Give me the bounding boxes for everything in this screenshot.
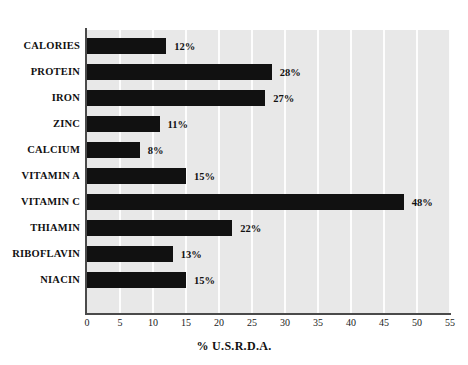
x-tick-label: 50 bbox=[402, 317, 432, 328]
x-tick-label: 25 bbox=[237, 317, 267, 328]
category-label: VITAMIN A bbox=[0, 163, 80, 189]
bar-value-label: 13% bbox=[181, 241, 202, 267]
bar bbox=[87, 90, 265, 106]
x-tick-label: 20 bbox=[204, 317, 234, 328]
bar bbox=[87, 142, 140, 158]
category-label: CALCIUM bbox=[0, 137, 80, 163]
x-tick-label: 45 bbox=[369, 317, 399, 328]
x-tick-label: 35 bbox=[303, 317, 333, 328]
category-label: VITAMIN C bbox=[0, 189, 80, 215]
bar-chart: CALORIES12%PROTEIN28%IRON27%ZINC11%CALCI… bbox=[0, 0, 468, 365]
bar-row: CALORIES12% bbox=[0, 33, 468, 59]
x-tick-label: 5 bbox=[105, 317, 135, 328]
bar bbox=[87, 38, 166, 54]
bar-row: PROTEIN28% bbox=[0, 59, 468, 85]
x-tick-label: 30 bbox=[270, 317, 300, 328]
bar-row: RIBOFLAVIN13% bbox=[0, 241, 468, 267]
category-label: NIACIN bbox=[0, 267, 80, 293]
bar-value-label: 28% bbox=[280, 59, 301, 85]
bar-value-label: 11% bbox=[168, 111, 188, 137]
x-tick-label: 15 bbox=[171, 317, 201, 328]
bar-row: CALCIUM8% bbox=[0, 137, 468, 163]
x-axis-title: % U.S.R.D.A. bbox=[0, 339, 468, 354]
x-axis-line bbox=[85, 313, 451, 315]
category-label: CALORIES bbox=[0, 33, 80, 59]
x-tick-label: 40 bbox=[336, 317, 366, 328]
bar bbox=[87, 246, 173, 262]
bar bbox=[87, 168, 186, 184]
bar bbox=[87, 220, 232, 236]
bar-value-label: 48% bbox=[412, 189, 433, 215]
bar-value-label: 22% bbox=[240, 215, 261, 241]
bar-row: ZINC11% bbox=[0, 111, 468, 137]
category-label: PROTEIN bbox=[0, 59, 80, 85]
bar bbox=[87, 64, 272, 80]
bar-value-label: 27% bbox=[273, 85, 294, 111]
x-tick-label: 0 bbox=[72, 317, 102, 328]
bar-value-label: 8% bbox=[148, 137, 164, 163]
bar-row: VITAMIN A15% bbox=[0, 163, 468, 189]
category-label: ZINC bbox=[0, 111, 80, 137]
bar-row: NIACIN15% bbox=[0, 267, 468, 293]
bar-value-label: 12% bbox=[174, 33, 195, 59]
category-label: RIBOFLAVIN bbox=[0, 241, 80, 267]
category-label: THIAMIN bbox=[0, 215, 80, 241]
bar-row: IRON27% bbox=[0, 85, 468, 111]
bar-row: VITAMIN C48% bbox=[0, 189, 468, 215]
bar-value-label: 15% bbox=[194, 163, 215, 189]
bar bbox=[87, 194, 404, 210]
bar-value-label: 15% bbox=[194, 267, 215, 293]
bar bbox=[87, 272, 186, 288]
category-label: IRON bbox=[0, 85, 80, 111]
bar-row: THIAMIN22% bbox=[0, 215, 468, 241]
x-tick-label: 10 bbox=[138, 317, 168, 328]
bar bbox=[87, 116, 160, 132]
x-tick-label: 55 bbox=[435, 317, 465, 328]
